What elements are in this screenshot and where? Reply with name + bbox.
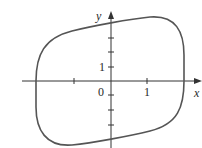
y-tick-label-1: 1 [99,60,105,74]
x-axis-label: x [193,86,200,100]
x-tick-label-1: 1 [144,85,150,99]
y-axis [108,11,114,148]
x-axis-arrow-icon [194,78,202,84]
x-axis [22,78,202,84]
origin-label: 0 [98,85,104,99]
curve-diagram: y x 0 1 1 [0,0,202,148]
y-axis-label: y [95,9,102,23]
y-axis-arrow-icon [108,11,114,19]
